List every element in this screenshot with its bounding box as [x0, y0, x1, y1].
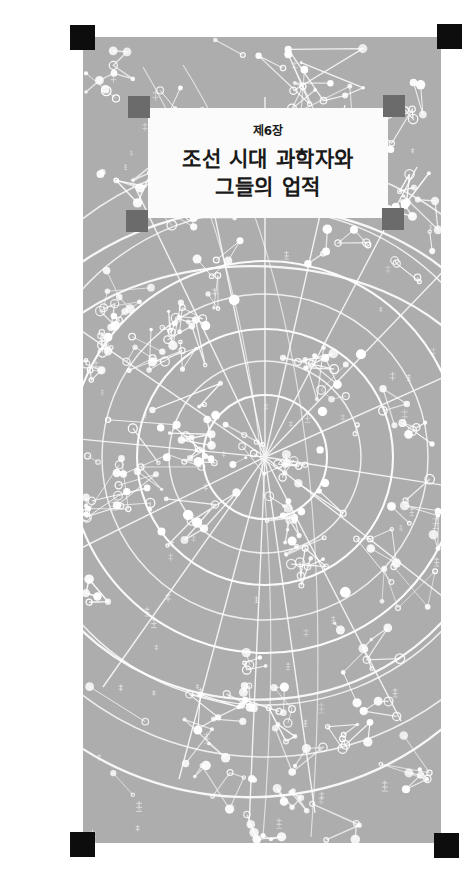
accent-square-top-left — [128, 96, 150, 118]
chapter-number: 제6장 — [253, 125, 283, 137]
registration-mark-top-left — [70, 25, 95, 50]
chapter-divider-page: 제6장 조선 시대 과학자와 그들의 업적 — [0, 0, 471, 883]
accent-square-bottom-left — [126, 210, 148, 232]
chapter-title-block: 제6장 조선 시대 과학자와 그들의 업적 — [140, 104, 388, 218]
registration-mark-bottom-left — [70, 832, 95, 857]
registration-mark-top-right — [437, 24, 462, 49]
chapter-title-line-1: 조선 시대 과학자와 — [182, 146, 354, 174]
title-text-group: 제6장 조선 시대 과학자와 그들의 업적 — [148, 108, 388, 218]
chapter-title-line-2: 그들의 업적 — [215, 174, 320, 202]
registration-mark-bottom-right — [434, 833, 459, 858]
